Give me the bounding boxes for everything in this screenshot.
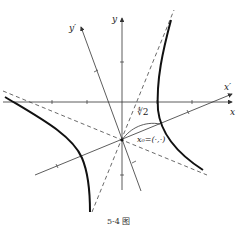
x-prime-axis-label: x′ <box>224 83 231 92</box>
asymptote-2 <box>3 91 207 175</box>
y-prime-axis-label: y′ <box>69 24 76 33</box>
point-label: x₀=(·,·) <box>137 136 165 144</box>
distance-label: ∜2 <box>137 108 148 117</box>
x-prime-axis <box>35 94 232 175</box>
figure-caption: 5-4 图 <box>107 218 130 226</box>
x-axis-label: x <box>230 108 235 117</box>
y-prime-ticks <box>94 70 136 163</box>
y-prime-axis <box>81 27 141 191</box>
hyperbola-right-branch <box>158 20 203 170</box>
y-axis-label: y <box>112 15 117 24</box>
hyperbola-diagram <box>0 0 244 230</box>
center-point <box>120 138 123 141</box>
asymptote-1 <box>92 10 174 212</box>
hyperbola-left-branch <box>5 97 90 212</box>
